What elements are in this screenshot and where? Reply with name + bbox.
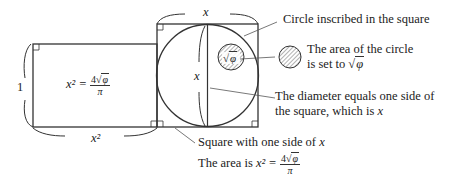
annotation-square-area: The area is x² = 4√φ π [198,153,300,176]
annotation-diameter-line2: the square, which is x [275,104,383,118]
annotation-circle-inscribed: Circle inscribed in the square [283,12,429,26]
inner-circle-sqrt-label: √φ [223,51,237,65]
leader-square [175,128,195,143]
annotation-diameter-line1: The diameter equals one side of [275,89,434,103]
annotation-area-line2: is set to √φ [307,57,364,71]
height-label: 1 [17,80,23,94]
hatched-circle-legend [279,46,301,68]
square-side-label: x [203,5,209,19]
right-angle-mark-top-left [33,44,39,50]
right-angle-mark-bottom-right [151,121,157,127]
annotation-area-line1: The area of the circle [307,42,413,56]
height-brace [24,44,33,127]
width-label: x² [91,131,100,145]
annotation-square-line1: Square with one side of x [198,135,325,149]
diameter-label: x [194,69,200,83]
rectangle-area-formula: x² = 4√φ π [66,74,110,97]
leader-diameter [210,88,275,98]
